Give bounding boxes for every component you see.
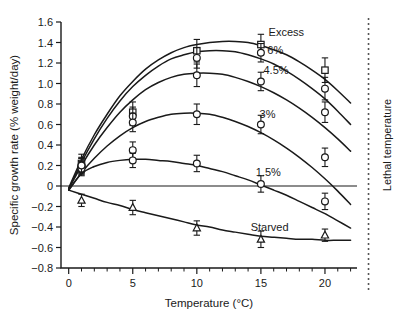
data-point-3- [193,111,200,118]
x-tick-label: 10 [191,277,203,289]
curve-3- [69,113,351,204]
data-point-1-5- [193,160,200,167]
x-tick-label: 5 [130,277,136,289]
curve-starved [69,190,351,240]
curve-label-3-: 3% [260,108,276,120]
data-point-3- [257,121,264,128]
curve-4-5- [69,73,351,189]
data-point-1-5- [129,157,136,164]
data-point-4-5- [322,109,329,116]
y-tick-label: −0.4 [31,221,53,233]
data-point-4-5- [193,72,200,79]
data-point-6- [257,49,264,56]
data-point-starved [78,196,85,203]
data-point-starved [321,231,328,238]
y-tick-label: 0.4 [38,139,53,151]
lethal-temperature-label: Lethal temperature [381,99,393,191]
y-axis-title: Specific growth rate (% weight/day) [8,55,20,235]
x-tick-label: 20 [319,277,331,289]
y-tick-label: 1.0 [38,78,53,90]
y-tick-label: 0.2 [38,160,53,172]
data-point-excess [322,67,328,73]
curve-1-5- [69,159,351,228]
figure-panel: −0.8−0.6−0.4−0.200.20.40.60.81.01.21.41.… [0,0,407,321]
y-tick-label: 1.6 [38,16,53,28]
y-tick-label: −0.6 [31,242,53,254]
curve-label-1-5-: 1.5% [256,166,281,178]
data-point-6- [193,54,200,61]
data-point-starved [129,204,136,211]
curve-label-starved: Starved [251,221,289,233]
x-tick-label: 15 [255,277,267,289]
axis-frame [61,22,357,268]
curve-label-excess: Excess [269,26,305,38]
y-tick-label: 0 [47,180,53,192]
curve-label-6-: 6% [267,44,283,56]
x-axis-title: Temperature (°C) [165,297,253,309]
y-tick-label: −0.8 [31,262,53,274]
curve-label-4-5-: 4.5% [263,64,288,76]
y-tick-label: 1.4 [38,37,53,49]
y-tick-label: 0.6 [38,119,53,131]
data-point-3- [129,147,136,154]
data-point-4-5- [129,119,136,126]
data-point-6- [322,85,329,92]
y-tick-label: 1.2 [38,57,53,69]
x-tick-label: 0 [66,277,72,289]
y-tick-label: 0.8 [38,98,53,110]
data-point-1-5- [78,162,85,169]
data-point-1-5- [257,181,264,188]
data-point-4-5- [257,78,264,85]
data-point-1-5- [322,198,329,205]
data-point-3- [322,154,329,161]
growth-rate-chart: −0.8−0.6−0.4−0.200.20.40.60.81.01.21.41.… [0,0,407,321]
y-tick-label: −0.2 [31,201,53,213]
